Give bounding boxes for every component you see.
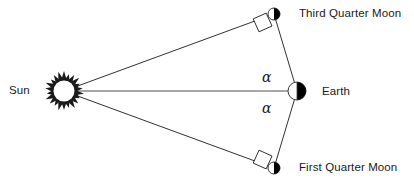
diagram-canvas	[0, 0, 414, 181]
third-quarter-moon-label: Third Quarter Moon	[299, 8, 401, 20]
earth-half-shaded-icon	[288, 82, 306, 100]
sun-to-first-quarter-moon-ray	[64, 91, 274, 168]
third-quarter-moon-half-shaded-icon	[268, 8, 280, 20]
earth-to-third-quarter-moon-line	[274, 14, 297, 91]
angle-alpha-upper-label: α	[262, 70, 271, 84]
sun-label: Sun	[9, 85, 30, 97]
first-quarter-moon-label: First Quarter Moon	[299, 162, 397, 174]
sun-starburst-icon	[45, 71, 84, 110]
connector-lines	[64, 14, 297, 168]
earth-to-first-quarter-moon-line	[274, 91, 297, 168]
sun-to-third-quarter-moon-ray	[64, 14, 274, 91]
earth-label: Earth	[322, 86, 350, 98]
sun-earth-moon-diagram: Sun Earth Third Quarter Moon First Quart…	[0, 0, 414, 181]
angle-alpha-lower-label: α	[262, 101, 271, 115]
first-quarter-moon-half-shaded-icon	[268, 162, 280, 174]
